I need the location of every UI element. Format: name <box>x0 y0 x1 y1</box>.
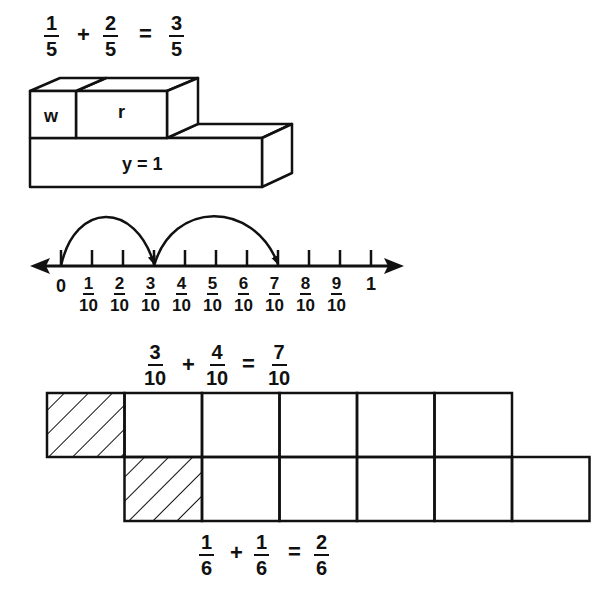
plus-sign: + <box>230 542 243 564</box>
grid-cell <box>357 393 435 457</box>
grid-cell <box>357 457 435 521</box>
grid-cell <box>435 393 513 457</box>
grid-cell <box>435 457 513 521</box>
fraction-two-sixths: 2 6 <box>314 532 329 578</box>
grid-cell <box>280 393 358 457</box>
grid-cell <box>202 457 280 521</box>
grid-cell <box>512 457 590 521</box>
grid-cell <box>202 393 280 457</box>
fraction-one-sixth-a: 1 6 <box>199 532 214 578</box>
sixths-grid <box>0 0 605 601</box>
fraction-one-sixth-b: 1 6 <box>254 532 269 578</box>
shaded-cell-hatch <box>47 393 125 457</box>
grid-cell <box>125 393 203 457</box>
grid-cell <box>280 457 358 521</box>
equals-sign: = <box>288 541 301 563</box>
shaded-cell-hatch <box>125 457 203 521</box>
